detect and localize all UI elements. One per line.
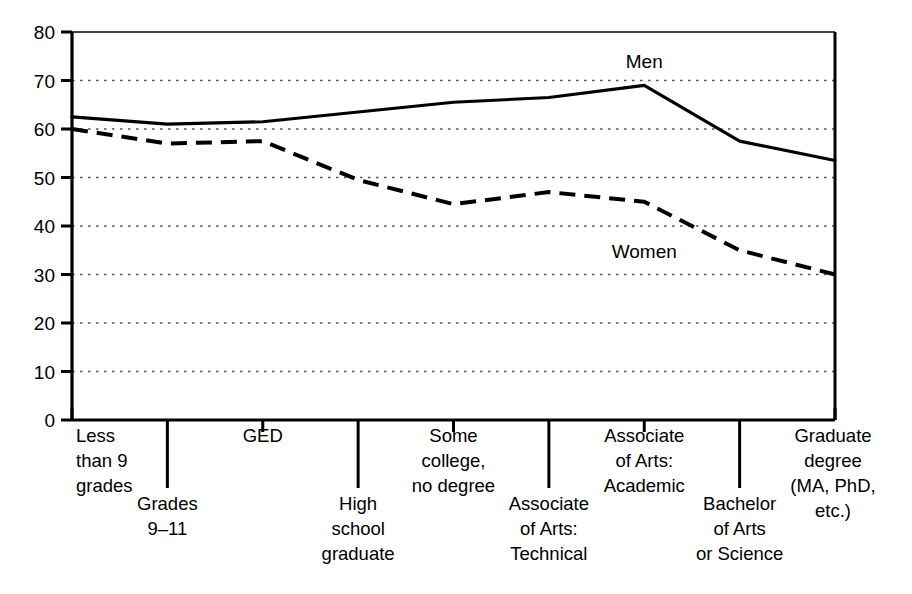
x-category-label-line: of Arts: (615, 450, 673, 471)
x-category-label-line: Technical (510, 543, 587, 564)
x-category-label-line: of Arts (713, 518, 765, 539)
line-chart: 01020304050607080 Lessthan 9gradesGrades… (0, 0, 912, 594)
x-category-label-line: Bachelor (703, 493, 776, 514)
x-category-label-line: Some (429, 425, 477, 446)
x-category-label-line: Associate (604, 425, 684, 446)
x-category-label-line: etc.) (815, 500, 851, 521)
x-category-label: GED (243, 425, 283, 446)
y-tick-label: 0 (44, 410, 55, 431)
y-tick-label: 80 (34, 22, 55, 43)
x-category-label-line: than 9 (76, 450, 127, 471)
y-tick-label: 70 (34, 71, 55, 92)
x-category-label: Associateof Arts:Academic (604, 425, 685, 496)
x-category-label-line: Academic (604, 475, 685, 496)
x-category-label-line: (MA, PhD, (790, 475, 875, 496)
series-label-men: Men (626, 51, 663, 72)
x-category-label: Associateof Arts:Technical (509, 493, 589, 564)
x-category-label-line: school (331, 518, 384, 539)
y-tick-label: 10 (34, 362, 55, 383)
x-category-label-line: graduate (322, 543, 395, 564)
x-category-label-line: Graduate (794, 425, 871, 446)
x-category-label-line: no degree (412, 475, 495, 496)
x-category-label-line: High (339, 493, 377, 514)
series-label-women: Women (612, 241, 677, 262)
x-category-label-line: of Arts: (520, 518, 578, 539)
x-category-label-line: Grades (137, 493, 198, 514)
x-category-label-line: college, (422, 450, 486, 471)
x-category-label-line: grades (76, 475, 133, 496)
y-tick-label: 50 (34, 168, 55, 189)
y-tick-label: 30 (34, 265, 55, 286)
x-category-label-line: GED (243, 425, 283, 446)
x-category-label-line: or Science (696, 543, 783, 564)
y-tick-label: 40 (34, 216, 55, 237)
x-category-label-line: 9–11 (147, 518, 187, 539)
y-tick-label: 20 (34, 313, 55, 334)
x-category-label-line: Less (76, 425, 115, 446)
chart-canvas: 01020304050607080 Lessthan 9gradesGrades… (0, 0, 912, 594)
x-category-label-line: degree (804, 450, 862, 471)
y-tick-label: 60 (34, 119, 55, 140)
x-category-label-line: Associate (509, 493, 589, 514)
y-axis-tick-labels: 01020304050607080 (34, 22, 55, 431)
